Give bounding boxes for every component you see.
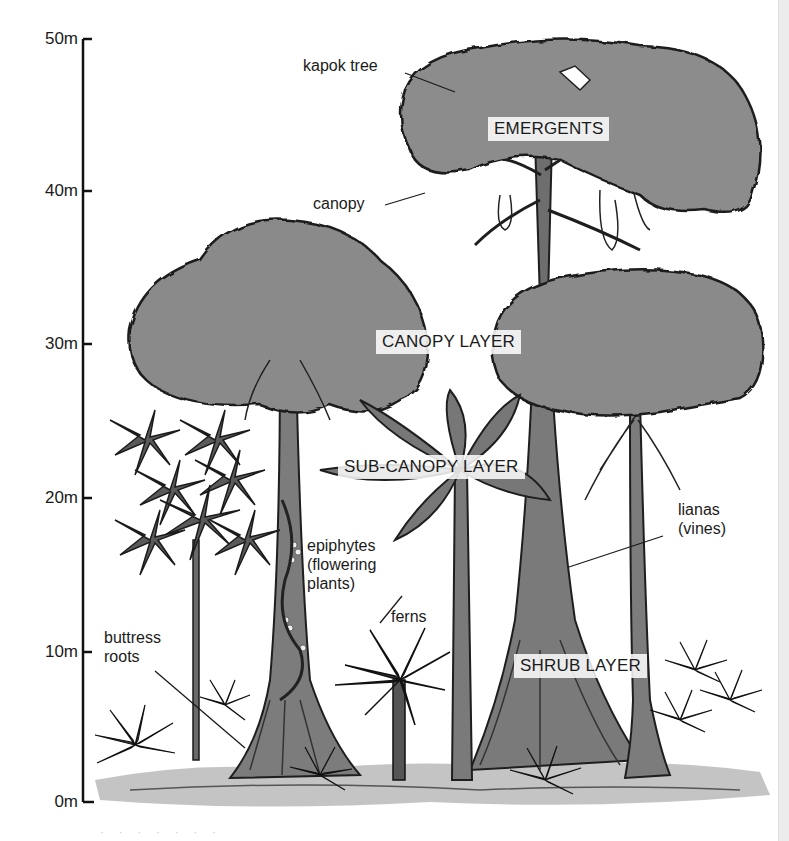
layer-label-sub-canopy: SUB-CANOPY LAYER bbox=[338, 455, 525, 479]
callout-epiphytes-line-1: epiphytes bbox=[307, 536, 376, 555]
scale-label-0m: 0m bbox=[22, 793, 78, 811]
figure-caption-cropped: · · · · · · · bbox=[100, 826, 222, 841]
layer-label-canopy: CANOPY LAYER bbox=[376, 330, 521, 354]
callout-epiphytes-line-3: plants) bbox=[307, 574, 376, 593]
scale-label-10m: 10m bbox=[22, 643, 78, 661]
callout-lianas-line-2: (vines) bbox=[678, 519, 726, 538]
callout-lianas: lianas (vines) bbox=[678, 500, 726, 538]
callout-lianas-line-1: lianas bbox=[678, 500, 726, 519]
callout-canopy: canopy bbox=[313, 194, 365, 213]
palm-cluster-left bbox=[110, 410, 280, 760]
fern-plant bbox=[335, 628, 450, 780]
callout-kapok-tree: kapok tree bbox=[303, 56, 378, 75]
canopy-tree-left bbox=[129, 220, 428, 779]
layer-label-shrub: SHRUB LAYER bbox=[514, 654, 647, 678]
kapok-tree-emergent bbox=[401, 39, 760, 300]
callout-buttress-roots: buttress roots bbox=[104, 628, 161, 666]
layer-label-emergents: EMERGENTS bbox=[488, 117, 609, 141]
callout-buttress-roots-line-1: buttress bbox=[104, 628, 161, 647]
callout-epiphytes-line-2: (flowering bbox=[307, 555, 376, 574]
height-scale-axis bbox=[83, 39, 94, 802]
scale-label-20m: 20m bbox=[22, 489, 78, 507]
scale-label-50m: 50m bbox=[22, 30, 78, 48]
scale-label-40m: 40m bbox=[22, 182, 78, 200]
callout-ferns: ferns bbox=[391, 607, 427, 626]
scale-label-30m: 30m bbox=[22, 335, 78, 353]
callout-buttress-roots-line-2: roots bbox=[104, 647, 161, 666]
callout-epiphytes: epiphytes (flowering plants) bbox=[307, 536, 376, 593]
